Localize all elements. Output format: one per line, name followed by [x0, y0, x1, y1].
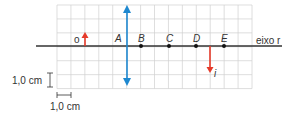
image-arrow [207, 46, 214, 73]
vertical-scale-bar [47, 73, 53, 87]
object-label: o [74, 35, 80, 45]
axis-label: eixo r [256, 36, 280, 46]
image-label: i [214, 69, 216, 79]
point-label-b: B [138, 34, 145, 44]
point-label-e: E [221, 34, 228, 44]
optics-diagram [0, 0, 285, 113]
object-arrow [82, 32, 89, 46]
point-label-d: D [193, 34, 200, 44]
horizontal-scale-bar [57, 92, 71, 98]
vertical-scale-label: 1,0 cm [12, 76, 42, 86]
point-label-c: C [166, 34, 173, 44]
point-label-a: A [115, 34, 122, 44]
horizontal-scale-label: 1,0 cm [50, 102, 80, 112]
